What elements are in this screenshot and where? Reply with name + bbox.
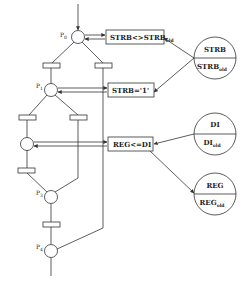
place-p2[interactable] — [21, 138, 34, 151]
transition-t1[interactable] — [43, 63, 60, 68]
signal-reg-bottom: REG — [200, 198, 217, 207]
arc-strb-to-a1 — [154, 58, 194, 92]
arc-p1-t3 — [29, 95, 47, 115]
transition-t4[interactable] — [70, 115, 87, 120]
arc-a2-to-reg — [150, 151, 194, 193]
petri-net-diagram: P0 STRB<>STRBold STRB STRBold P1 STRB='1… — [0, 0, 251, 290]
arc-t4-p3 — [55, 120, 78, 192]
arc-p1-t4 — [55, 95, 78, 115]
svg-text:P3: P3 — [36, 189, 43, 198]
transition-t3[interactable] — [19, 115, 36, 120]
svg-text:P0: P0 — [60, 31, 67, 40]
arc-p0-t2 — [82, 42, 103, 63]
place-p1[interactable]: P1 — [36, 82, 58, 97]
arc-p0-t1 — [52, 42, 74, 63]
svg-text:P4: P4 — [36, 243, 43, 252]
arc-t2-p4 — [57, 68, 103, 249]
signal-di[interactable]: DI DIold — [194, 113, 236, 155]
signal-strb-bottom: STRB — [197, 62, 219, 71]
action-a1-text: STRB='1' — [112, 86, 149, 95]
transition-t6[interactable] — [43, 222, 60, 227]
action-box-reg-assign[interactable]: REG<=DI — [108, 137, 153, 151]
svg-text:P1: P1 — [36, 82, 43, 91]
svg-text:STRB<>STRBold: STRB<>STRBold — [110, 33, 174, 43]
signal-reg-top: REG — [206, 181, 223, 190]
signal-strb[interactable]: STRB STRBold — [194, 37, 236, 79]
action-a2-text: REG<=DI — [113, 140, 151, 149]
action-box-strb-set[interactable]: STRB='1' — [108, 83, 154, 97]
signal-reg[interactable]: REG REGold — [194, 173, 236, 215]
action-box-strb-compare[interactable]: STRB<>STRBold — [106, 30, 174, 44]
arc-strb-to-a0 — [164, 38, 194, 58]
transition-t2[interactable] — [95, 63, 112, 68]
signal-strb-top: STRB — [204, 45, 226, 54]
place-p3[interactable]: P3 — [36, 189, 58, 204]
place-p4[interactable]: P4 — [36, 243, 58, 258]
signal-di-bottom: DI — [203, 138, 212, 147]
action-a0-text: STRB<>STRB — [110, 33, 166, 42]
signal-di-top: DI — [210, 120, 219, 129]
transition-t5[interactable] — [18, 168, 35, 173]
place-p0[interactable]: P0 — [60, 31, 85, 44]
arc-di-to-a2 — [154, 134, 194, 144]
